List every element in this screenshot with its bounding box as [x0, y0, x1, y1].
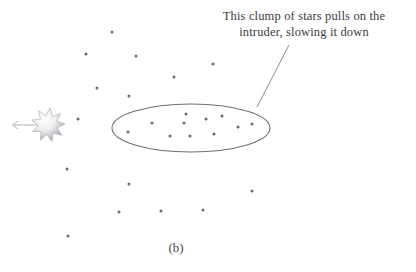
figure-panel-b: This clump of stars pulls on the intrude…	[0, 0, 416, 272]
field-star	[128, 183, 131, 186]
clump-star	[205, 118, 208, 121]
clump-star	[169, 135, 172, 138]
annotation-text-line-2: intruder, slowing it down	[196, 24, 412, 40]
figure-canvas	[0, 0, 416, 272]
clump-ellipse	[112, 104, 270, 152]
field-star	[173, 76, 176, 79]
field-star	[160, 210, 163, 213]
field-stars-group	[66, 31, 254, 238]
field-star	[135, 55, 138, 58]
clump-star	[151, 122, 154, 125]
field-star	[96, 87, 99, 90]
field-star	[67, 235, 70, 238]
clump-star	[183, 122, 186, 125]
field-star	[128, 95, 131, 98]
clump-star	[213, 133, 216, 136]
clump-star	[127, 131, 130, 134]
clump-star	[237, 126, 240, 129]
field-star	[85, 53, 88, 56]
annotation-text-line-1: This clump of stars pulls on the	[196, 8, 412, 24]
clump-star	[189, 135, 192, 138]
field-star	[66, 168, 69, 171]
leader-line-group	[257, 45, 289, 107]
panel-caption: (b)	[156, 240, 196, 256]
clump-stars-group	[127, 113, 254, 138]
clump-star	[185, 113, 188, 116]
field-star	[202, 209, 205, 212]
field-star	[251, 190, 254, 193]
clump-star	[251, 123, 254, 126]
leader-line	[257, 45, 289, 107]
annotation-text: This clump of stars pulls on the intrude…	[196, 8, 412, 40]
field-star	[77, 118, 80, 121]
field-star	[118, 211, 121, 214]
field-star	[111, 31, 114, 34]
clump-ellipse-group	[112, 104, 270, 152]
field-star	[212, 63, 215, 66]
clump-star	[221, 115, 224, 118]
